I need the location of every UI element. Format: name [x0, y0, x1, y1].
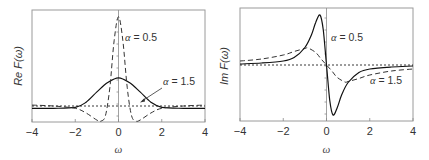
- left-annotation-alpha-1-5: α = 1.5: [163, 75, 195, 87]
- x-tick-label: −4: [26, 126, 39, 138]
- x-tick-label: 0: [115, 126, 121, 138]
- right-y-axis-label: Im F(ω): [218, 47, 230, 85]
- right-panel-im: −4−2024 α = 0.5 α = 1.5 Im F(ω) ω: [218, 8, 416, 155]
- right-x-axis-label: ω: [323, 143, 331, 155]
- left-x-axis-label: ω: [115, 143, 123, 155]
- x-tick-label: 2: [159, 126, 165, 138]
- x-tick-label: 2: [367, 125, 373, 137]
- left-annotation-arrow: [142, 88, 162, 101]
- right-annotation-alpha-1-5: α = 1.5: [370, 74, 402, 86]
- x-tick-label: 0: [323, 125, 329, 137]
- x-tick-label: −2: [69, 126, 82, 138]
- x-tick-label: 4: [202, 126, 208, 138]
- arrowhead-icon: [140, 98, 145, 103]
- left-annotation-alpha-0-5: α = 0.5: [125, 31, 157, 43]
- left-panel-re: −4−2024 α = 0.5 α = 1.5 Re F(ω) ω: [12, 10, 208, 155]
- x-tick-label: 4: [410, 125, 416, 137]
- figure: −4−2024 α = 0.5 α = 1.5 Re F(ω) ω −4−202…: [0, 0, 429, 160]
- right-annotation-alpha-0-5: α = 0.5: [331, 31, 363, 43]
- left-y-axis-label: Re F(ω): [12, 46, 24, 86]
- x-tick-label: −4: [234, 125, 247, 137]
- x-tick-label: −2: [277, 125, 290, 137]
